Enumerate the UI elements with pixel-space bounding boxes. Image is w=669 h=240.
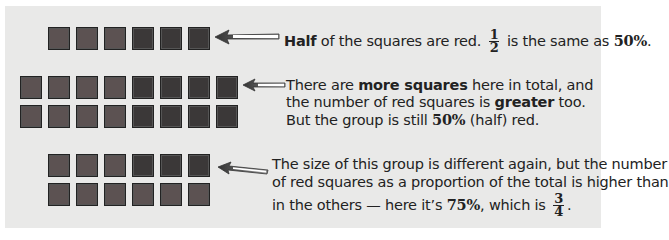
caption-group-1: Half of the squares are red. 12 is the s… [284, 29, 651, 54]
caption-period: . [567, 197, 571, 213]
red-square [76, 154, 98, 177]
dark-square [188, 154, 210, 177]
red-square [132, 183, 154, 206]
caption-group-3: The size of this group is different agai… [272, 155, 669, 218]
dark-square [132, 27, 154, 50]
square-group-proportion [48, 154, 210, 206]
caption-period: . [647, 33, 651, 49]
caption-text: is the same as [502, 33, 613, 49]
caption-text: There are [286, 77, 358, 93]
caption-text: , which is [480, 197, 550, 213]
dark-square [188, 76, 210, 99]
caption-line: There are more squares here in total, an… [286, 77, 593, 94]
caption-line: in the others — here it’s 75%, which is … [272, 193, 669, 218]
caption-bold-percent: 75% [447, 196, 480, 213]
fraction-three-quarters: 34 [553, 193, 564, 218]
dark-square [160, 76, 182, 99]
caption-text: (half) red. [465, 112, 539, 128]
caption-text: too. [554, 94, 585, 110]
red-square [76, 76, 98, 99]
red-square [20, 105, 42, 128]
red-square [48, 183, 70, 206]
red-square [48, 105, 70, 128]
arrow-left-icon [213, 29, 281, 45]
dark-square [132, 105, 154, 128]
dark-square [132, 154, 154, 177]
caption-line: But the group is still 50% (half) red. [286, 111, 593, 129]
red-square [104, 27, 126, 50]
red-square [76, 105, 98, 128]
caption-line: The size of this group is different agai… [272, 155, 669, 173]
red-square [48, 27, 70, 50]
dark-square [132, 76, 154, 99]
red-square [104, 76, 126, 99]
square-group-more [20, 76, 238, 128]
caption-text: in the others — here it’s [272, 197, 447, 213]
caption-bold: greater [495, 94, 555, 110]
red-square [76, 183, 98, 206]
caption-bold-percent: 50% [432, 111, 465, 128]
dark-square [216, 105, 238, 128]
red-square [20, 76, 42, 99]
red-square [104, 105, 126, 128]
fraction-one-half: 12 [489, 29, 500, 54]
red-square [104, 154, 126, 177]
dark-square [188, 105, 210, 128]
square-group-half [48, 27, 210, 50]
red-square [188, 183, 210, 206]
dark-square [160, 105, 182, 128]
caption-bold-half: Half [284, 33, 316, 49]
arrow-left-icon [216, 161, 270, 179]
dark-square [160, 154, 182, 177]
caption-bold-percent: 50% [614, 32, 647, 49]
caption-text: of the squares are red. [316, 33, 481, 49]
fraction-denominator: 4 [554, 206, 563, 218]
dark-square [216, 76, 238, 99]
caption-line: of red squares as a proportion of the to… [272, 173, 669, 191]
caption-text: here in total, and [468, 77, 594, 93]
caption-text: But the group is still [286, 112, 432, 128]
caption-line: the number of red squares is greater too… [286, 94, 593, 111]
red-square [76, 27, 98, 50]
caption-group-2: There are more squares here in total, an… [286, 77, 593, 129]
caption-text: the number of red squares is [286, 94, 495, 110]
dark-square [188, 27, 210, 50]
caption-bold: more squares [358, 77, 467, 93]
arrow-left-icon [241, 78, 287, 92]
red-square [48, 76, 70, 99]
red-square [160, 183, 182, 206]
dark-square [160, 27, 182, 50]
fraction-denominator: 2 [490, 42, 499, 54]
red-square [104, 183, 126, 206]
red-square [48, 154, 70, 177]
